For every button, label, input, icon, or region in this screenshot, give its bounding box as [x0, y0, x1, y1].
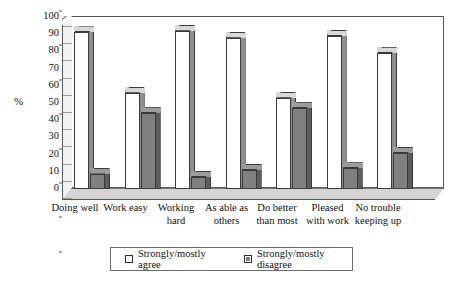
- bar-side: [206, 177, 211, 189]
- chart-legend: Strongly/mostly agreeStrongly/mostly dis…: [110, 247, 353, 271]
- bar-side: [257, 170, 262, 189]
- y-axis-tick-label: 40: [49, 114, 60, 124]
- bar-agree: [327, 36, 342, 189]
- bar-face: [74, 32, 89, 189]
- bar-agree: [226, 38, 241, 189]
- x-axis-label: Do better than most: [248, 201, 306, 227]
- bar-top: [175, 25, 195, 31]
- bar-face: [125, 93, 140, 189]
- bar-disagree: [141, 113, 156, 189]
- bar-group: [125, 17, 165, 189]
- bar-agree: [74, 32, 89, 189]
- y-axis-tick-label: 50: [49, 97, 60, 107]
- bar-disagree: [292, 108, 307, 189]
- bar-disagree: [242, 170, 257, 189]
- y-axis-tick-label: 10: [49, 166, 60, 176]
- bars-layer: [62, 16, 444, 200]
- bar-face: [175, 31, 190, 189]
- bar-group: [175, 17, 215, 189]
- bar-agree: [175, 31, 190, 189]
- plot-wall-tick: [63, 95, 72, 96]
- plot-wall-tick: [63, 78, 72, 79]
- bar-chart: % 1009080706050403020100 Doing wellWork …: [0, 0, 456, 284]
- bar-side: [190, 31, 195, 189]
- x-axis-label: Doing well: [46, 201, 104, 214]
- y-axis-tick-label: 100: [43, 11, 59, 21]
- y-axis-tick-label: 30: [49, 131, 60, 141]
- bar-side: [105, 174, 110, 189]
- y-axis-tick-labels: 1009080706050403020100: [36, 16, 62, 194]
- y-axis-tick-label: 70: [49, 63, 60, 73]
- legend-item: Strongly/mostly agree: [125, 248, 222, 270]
- bar-group: [377, 17, 417, 189]
- bar-side: [358, 168, 363, 189]
- bar-top: [242, 164, 262, 170]
- bar-agree: [276, 98, 291, 189]
- y-axis-tick-label: 60: [49, 80, 60, 90]
- bar-disagree: [393, 153, 408, 189]
- plot-wall-tick: [63, 112, 72, 113]
- bar-side: [408, 153, 413, 189]
- bar-top: [226, 32, 246, 38]
- bar-group: [226, 17, 266, 189]
- bar-face: [191, 177, 206, 189]
- legend-swatch-agree: [125, 255, 133, 263]
- bar-face: [226, 38, 241, 189]
- bar-top: [292, 102, 312, 108]
- x-axis-label: No trouble keeping up: [349, 201, 407, 227]
- bar-disagree: [191, 177, 206, 189]
- bar-top: [141, 107, 161, 113]
- plot-wall-tick: [63, 26, 72, 27]
- bar-face: [276, 98, 291, 189]
- bar-face: [141, 113, 156, 189]
- bar-face: [327, 36, 342, 189]
- legend-swatch-disagree: [244, 255, 252, 263]
- bar-top: [90, 168, 110, 174]
- y-axis-tick-label: 20: [49, 149, 60, 159]
- bar-top: [393, 147, 413, 153]
- legend-item: Strongly/mostly disagree: [244, 248, 352, 270]
- bar-group: [327, 17, 367, 189]
- y-axis-tick-mark: [59, 11, 62, 12]
- plot-wall-tick: [63, 198, 72, 199]
- bar-side: [307, 108, 312, 189]
- bar-face: [343, 168, 358, 189]
- y-axis-tick-mark: [59, 251, 62, 252]
- bar-face: [393, 153, 408, 189]
- x-axis-label: Working hard: [147, 201, 205, 227]
- bar-top: [125, 87, 145, 93]
- bar-agree: [125, 93, 140, 189]
- bar-top: [276, 92, 296, 98]
- y-axis-title: %: [14, 96, 23, 107]
- x-axis-label: As able as others: [198, 201, 256, 227]
- bar-face: [377, 53, 392, 189]
- y-axis-tick-label: 0: [54, 183, 59, 193]
- bar-face: [242, 170, 257, 189]
- legend-label: Strongly/mostly disagree: [257, 248, 352, 270]
- bar-top: [343, 162, 363, 168]
- bar-top: [191, 171, 211, 177]
- x-axis-category-labels: Doing wellWork easyWorking hardAs able a…: [50, 201, 456, 239]
- y-axis-tick-label: 80: [49, 45, 60, 55]
- bar-top: [74, 26, 94, 32]
- plot-wall-tick: [63, 146, 72, 147]
- x-axis-label: Pleased with work: [299, 201, 357, 227]
- bar-group: [276, 17, 316, 189]
- plot-area: [62, 16, 444, 200]
- bar-group: [74, 17, 114, 189]
- plot-wall-tick: [63, 129, 72, 130]
- bar-disagree: [343, 168, 358, 189]
- plot-wall-tick: [63, 60, 72, 61]
- x-axis-label: Work easy: [97, 201, 155, 214]
- y-axis-tick-label: 90: [49, 28, 60, 38]
- bar-face: [90, 174, 105, 189]
- bar-top: [377, 47, 397, 53]
- bar-agree: [377, 53, 392, 189]
- plot-wall-tick: [63, 181, 72, 182]
- bar-side: [89, 32, 94, 189]
- bar-side: [156, 113, 161, 189]
- plot-wall-tick: [63, 43, 72, 44]
- bar-top: [327, 30, 347, 36]
- bar-face: [292, 108, 307, 189]
- bar-disagree: [90, 174, 105, 189]
